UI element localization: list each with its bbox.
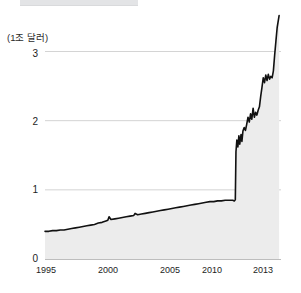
chart-figure: (1조 달러) 0 1 2 3 1995 2000 2005 2010 2013 <box>0 0 301 293</box>
plot-area <box>0 0 301 293</box>
area-fill <box>45 16 279 259</box>
